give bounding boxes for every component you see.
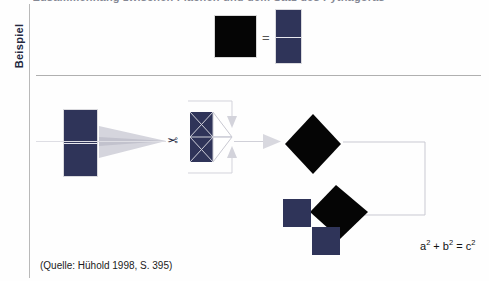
source-caption: (Quelle: Hühold 1998, S. 395) bbox=[40, 260, 172, 271]
page-canvas: Zusammenhang zwischen Flächen und dem Sa… bbox=[0, 0, 489, 281]
navy-square-b2 bbox=[312, 227, 340, 255]
scissors-icon: ✂ bbox=[167, 134, 178, 147]
rotation-arrow-upper bbox=[227, 116, 237, 128]
diagram-arrows-layer bbox=[0, 0, 489, 281]
formula-plus: + bbox=[433, 240, 439, 252]
navy-square-a2 bbox=[283, 199, 311, 227]
pythagoras-formula: a2 + b2 = c2 bbox=[420, 238, 475, 252]
formula-a-exp: 2 bbox=[426, 238, 430, 247]
white-triangle-lower bbox=[213, 137, 232, 162]
formula-b-exp: 2 bbox=[449, 238, 453, 247]
formula-equals: = bbox=[456, 240, 462, 252]
arrow-head-to-diamond bbox=[263, 134, 281, 149]
formula-c-exp: 2 bbox=[471, 238, 475, 247]
rotation-arrow-lower bbox=[227, 146, 237, 158]
black-diamond bbox=[285, 114, 341, 174]
white-triangle-upper bbox=[213, 112, 232, 137]
